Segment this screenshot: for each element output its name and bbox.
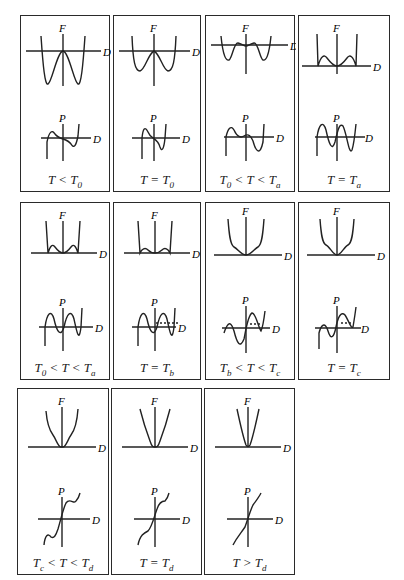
panel-t0-lt-t-lt-ta: F D P D T0 < T < Ta xyxy=(205,15,295,192)
svg-text:P: P xyxy=(332,294,340,306)
svg-text:D: D xyxy=(191,248,200,260)
f-axis-label: F xyxy=(58,22,66,34)
svg-text:P: P xyxy=(332,112,340,124)
panel-t-gt-td: F D P D T > Td xyxy=(204,388,295,575)
svg-text:D: D xyxy=(376,250,385,262)
svg-text:F: F xyxy=(243,395,251,407)
svg-text:D: D xyxy=(275,132,284,144)
svg-text:P: P xyxy=(58,112,66,124)
condition-caption: T = Td xyxy=(112,555,201,573)
svg-text:P: P xyxy=(58,296,66,308)
svg-text:D: D xyxy=(364,132,373,144)
svg-text:F: F xyxy=(150,395,158,407)
condition-caption: T = Ta xyxy=(299,172,389,190)
svg-text:F: F xyxy=(332,22,340,34)
svg-text:P: P xyxy=(150,296,158,308)
svg-text:D: D xyxy=(181,514,190,526)
svg-text:F: F xyxy=(149,22,157,34)
panel-t-eq-ta: F D P D T = Ta xyxy=(298,15,390,192)
svg-text:D: D xyxy=(94,322,103,334)
svg-text:D: D xyxy=(177,322,186,334)
svg-text:D: D xyxy=(181,133,190,145)
condition-caption: T > Td xyxy=(205,555,294,573)
svg-text:D: D xyxy=(98,248,107,260)
svg-text:D: D xyxy=(97,442,106,454)
svg-text:D: D xyxy=(283,250,292,262)
svg-text:D: D xyxy=(372,61,381,73)
condition-caption: Tb < T < Tc xyxy=(206,360,294,378)
panel-t-eq-tc: F D P D T = Tc xyxy=(298,202,390,380)
svg-text:F: F xyxy=(241,205,249,217)
svg-text:D: D xyxy=(271,323,280,335)
condition-caption: T0 < T < Ta xyxy=(206,172,294,190)
panel-t-lt-t0: F D P D T < T0 xyxy=(20,15,110,192)
condition-caption: T = Tb xyxy=(114,360,200,378)
svg-text:D: D xyxy=(289,40,296,52)
panel-t-eq-td: F D P D T = Td xyxy=(111,388,202,575)
svg-text:D: D xyxy=(91,514,100,526)
svg-text:F: F xyxy=(150,209,158,221)
svg-text:D: D xyxy=(191,46,200,58)
svg-text:P: P xyxy=(150,485,158,497)
condition-caption: T = Tc xyxy=(299,360,389,378)
panel-tb-lt-t-lt-tc: F D P D Tb < T < Tc xyxy=(205,202,295,380)
svg-text:P: P xyxy=(243,485,251,497)
svg-text:P: P xyxy=(241,294,249,306)
svg-text:D: D xyxy=(189,442,198,454)
svg-text:D: D xyxy=(92,133,101,145)
svg-text:F: F xyxy=(58,209,66,221)
condition-caption: Tc < T < Td xyxy=(18,555,108,573)
svg-text:D: D xyxy=(102,46,111,58)
svg-text:F: F xyxy=(57,395,65,407)
svg-text:D: D xyxy=(274,514,283,526)
svg-text:P: P xyxy=(57,485,65,497)
panel-tc-lt-t-lt-td: F D P D Tc < T < Td xyxy=(17,388,109,575)
condition-caption: T = T0 xyxy=(114,172,200,190)
svg-text:F: F xyxy=(241,22,249,34)
condition-caption: T0 < T < Ta xyxy=(21,360,109,378)
svg-text:P: P xyxy=(149,112,157,124)
svg-text:D: D xyxy=(360,323,369,335)
svg-text:D: D xyxy=(282,442,291,454)
condition-caption: T < T0 xyxy=(21,172,109,190)
plot-f-and-p: F D P D xyxy=(21,16,111,193)
svg-text:P: P xyxy=(241,112,249,124)
panel-t0-lt-t-lt-ta-2: F D P D T0 < T < Ta xyxy=(20,202,110,380)
panel-t-eq-tb: F D P D T = Tb xyxy=(113,202,201,380)
svg-text:F: F xyxy=(332,205,340,217)
panel-t-eq-t0: F D P D T = T0 xyxy=(113,15,201,192)
